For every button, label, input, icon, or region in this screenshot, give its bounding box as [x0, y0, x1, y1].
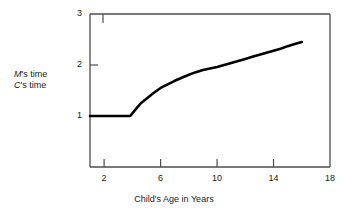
x-tick-label: 18 — [320, 173, 340, 183]
x-tick-label: 2 — [94, 173, 114, 183]
y-axis-label-denominator-rest: 's time — [21, 80, 47, 90]
y-tick-label: 3 — [68, 8, 82, 18]
y-tick-label: 2 — [68, 59, 82, 69]
axis-frame — [90, 14, 330, 167]
x-tick-label: 14 — [264, 173, 284, 183]
y-axis-label-numerator: M's time — [14, 69, 76, 80]
x-tick-label: 6 — [151, 173, 171, 183]
y-tick-label: 1 — [68, 110, 82, 120]
y-axis-label-numerator-rest: 's time — [22, 69, 48, 79]
tick-marks — [90, 14, 274, 167]
data-series-line — [90, 42, 302, 116]
chart-figure: M's time C's time Child's Age in Years 1… — [0, 0, 348, 214]
y-axis-label-numerator-symbol: M — [14, 69, 22, 79]
x-axis-title: Child's Age in Years — [0, 194, 348, 204]
y-axis-label-denominator: C's time — [14, 80, 76, 91]
y-axis-label: M's time C's time — [14, 69, 76, 91]
x-tick-label: 10 — [207, 173, 227, 183]
plot-area — [0, 0, 348, 214]
